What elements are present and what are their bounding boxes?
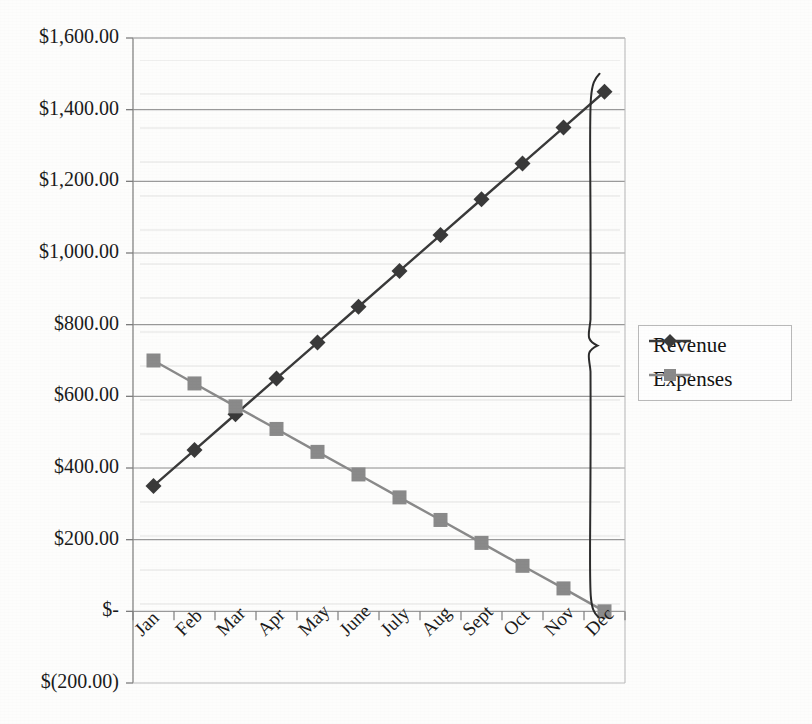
y-axis-tick-label: $- xyxy=(0,598,119,621)
expenses-marker-icon xyxy=(647,364,693,386)
y-axis-tick-label: $1,000.00 xyxy=(0,240,119,263)
y-axis-tick-label: $800.00 xyxy=(0,312,119,335)
y-gridlines xyxy=(133,38,625,611)
y-axis-tick-label: $1,200.00 xyxy=(0,168,119,191)
chart-canvas: $(200.00)$-$200.00$400.00$600.00$800.00$… xyxy=(0,0,812,724)
chart-legend[interactable]: Revenue Expenses xyxy=(638,325,792,401)
legend-item-expenses[interactable]: Expenses xyxy=(647,364,732,394)
y-axis-tick-label: $600.00 xyxy=(0,383,119,406)
y-tick-marks xyxy=(126,38,133,683)
y-axis-tick-label: $200.00 xyxy=(0,527,119,550)
y-axis-tick-label: $400.00 xyxy=(0,455,119,478)
revenue-marker-icon xyxy=(647,330,693,352)
legend-item-revenue[interactable]: Revenue xyxy=(647,330,726,360)
y-axis-tick-label: $(200.00) xyxy=(0,670,119,693)
axis-lines xyxy=(133,38,625,683)
y-axis-tick-label: $1,600.00 xyxy=(0,25,119,48)
data-series-layer xyxy=(146,84,613,619)
annotation-brace xyxy=(589,74,600,618)
y-axis-tick-label: $1,400.00 xyxy=(0,97,119,120)
